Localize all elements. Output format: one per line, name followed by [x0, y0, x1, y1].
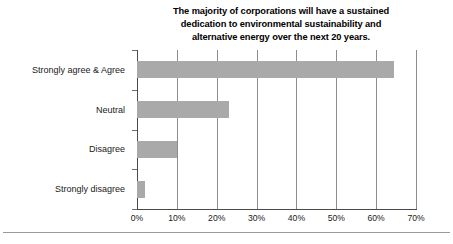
bar — [137, 101, 229, 118]
x-tick-label: 60% — [368, 213, 385, 223]
gridline-70% — [416, 50, 417, 209]
y-axis-tick — [132, 130, 137, 131]
bar — [137, 181, 145, 198]
y-axis-labels: Strongly agree & AgreeNeutralDisagreeStr… — [0, 50, 131, 209]
bar — [137, 141, 177, 158]
y-axis-tick — [132, 50, 137, 51]
y-axis-category-label: Strongly agree & Agree — [32, 65, 125, 75]
y-axis-tick — [132, 169, 137, 170]
y-axis-tick — [132, 90, 137, 91]
plot-area — [137, 50, 416, 209]
y-axis-category-label: Neutral — [96, 105, 125, 115]
x-axis-line — [137, 209, 417, 210]
footer-divider — [3, 232, 450, 233]
chart-title-line-1: The majority of corporations will have a… — [131, 5, 431, 18]
chart-title-line-2: dedication to environmental sustainabili… — [131, 18, 431, 31]
x-tick-label: 30% — [248, 213, 265, 223]
x-tick-label: 70% — [407, 213, 424, 223]
x-tick-label: 0% — [131, 213, 143, 223]
chart-title: The majority of corporations will have a… — [131, 5, 431, 45]
bar — [137, 61, 394, 78]
x-tick-label: 20% — [208, 213, 225, 223]
y-axis-category-label: Disagree — [89, 144, 125, 154]
y-axis-tick — [132, 209, 137, 210]
chart-title-line-3: alternative energy over the next 20 year… — [131, 31, 431, 44]
x-tick-label: 40% — [288, 213, 305, 223]
x-tick-label: 50% — [328, 213, 345, 223]
x-tick-label: 10% — [168, 213, 185, 223]
x-axis-tick-labels: 0%10%20%30%40%50%60%70% — [137, 213, 416, 227]
bar-chart-figure: The majority of corporations will have a… — [0, 0, 453, 244]
y-axis-category-label: Strongly disagree — [55, 184, 125, 194]
